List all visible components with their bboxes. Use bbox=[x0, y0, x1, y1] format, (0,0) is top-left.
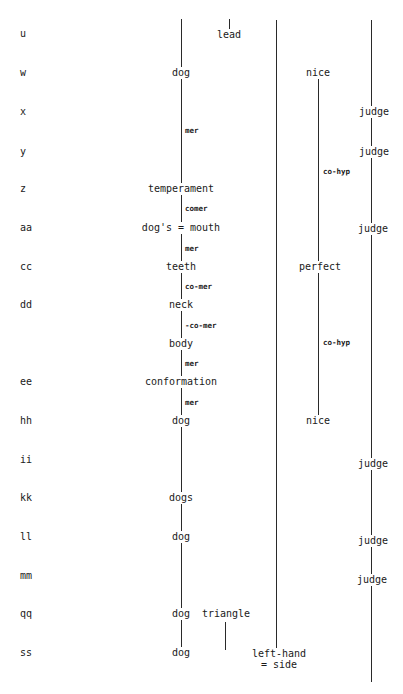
col3-line bbox=[276, 20, 277, 648]
row-label: x bbox=[20, 106, 26, 118]
node-dogs: dogs bbox=[168, 492, 194, 504]
node-dog: dog bbox=[171, 531, 191, 543]
node-dog: dog bbox=[171, 67, 191, 79]
relation-label: comer bbox=[185, 204, 208, 213]
node-conformation: conformation bbox=[144, 376, 218, 388]
node-teeth: teeth bbox=[165, 261, 197, 273]
row-label: hh bbox=[20, 415, 32, 427]
relation-label: mer bbox=[185, 359, 199, 368]
relation-label: mer bbox=[185, 126, 199, 135]
row-label: ll bbox=[20, 531, 32, 543]
relation-label: -co-mer bbox=[185, 321, 217, 330]
row-label: ss bbox=[20, 647, 32, 659]
node-body: body bbox=[168, 338, 194, 350]
row-label: u bbox=[20, 28, 26, 40]
relation-label: mer bbox=[185, 398, 199, 407]
row-label: aa bbox=[20, 222, 32, 234]
row-label: mm bbox=[20, 570, 32, 582]
row-label: w bbox=[20, 67, 26, 79]
node-dogs-mouth: dog's = mouth bbox=[141, 222, 221, 234]
row-label: y bbox=[20, 146, 26, 158]
row-label: dd bbox=[20, 299, 32, 311]
node-dog: dog bbox=[171, 415, 191, 427]
row-label: cc bbox=[20, 261, 32, 273]
relation-label: co-mer bbox=[185, 282, 212, 291]
node-dog: dog bbox=[171, 647, 191, 659]
row-label: ee bbox=[20, 376, 32, 388]
node-lead: lead bbox=[216, 29, 242, 41]
node-perfect: perfect bbox=[298, 261, 342, 273]
row-label: ii bbox=[20, 454, 32, 466]
node-judge: judge bbox=[356, 574, 388, 586]
node-judge: judge bbox=[357, 535, 389, 547]
node-judge: judge bbox=[357, 223, 389, 235]
node-dog: dog bbox=[171, 608, 191, 620]
node-judge: judge bbox=[357, 458, 389, 470]
relation-label: co-hyp bbox=[323, 338, 350, 347]
relation-label: co-hyp bbox=[323, 167, 350, 176]
lead-tick bbox=[229, 19, 230, 29]
col1-line bbox=[181, 19, 182, 647]
node-nice: nice bbox=[305, 67, 331, 79]
node-judge: judge bbox=[358, 106, 390, 118]
triangle-line bbox=[225, 622, 226, 650]
node-judge: judge bbox=[358, 146, 390, 158]
node-side: = side bbox=[260, 659, 298, 671]
node-triangle: triangle bbox=[201, 608, 251, 620]
row-label: kk bbox=[20, 492, 32, 504]
col4-line bbox=[318, 78, 319, 416]
node-nice: nice bbox=[305, 415, 331, 427]
row-label: z bbox=[20, 183, 26, 195]
node-temperament: temperament bbox=[147, 183, 215, 195]
node-neck: neck bbox=[168, 299, 194, 311]
row-label: qq bbox=[20, 608, 32, 620]
relation-label: mer bbox=[185, 244, 199, 253]
